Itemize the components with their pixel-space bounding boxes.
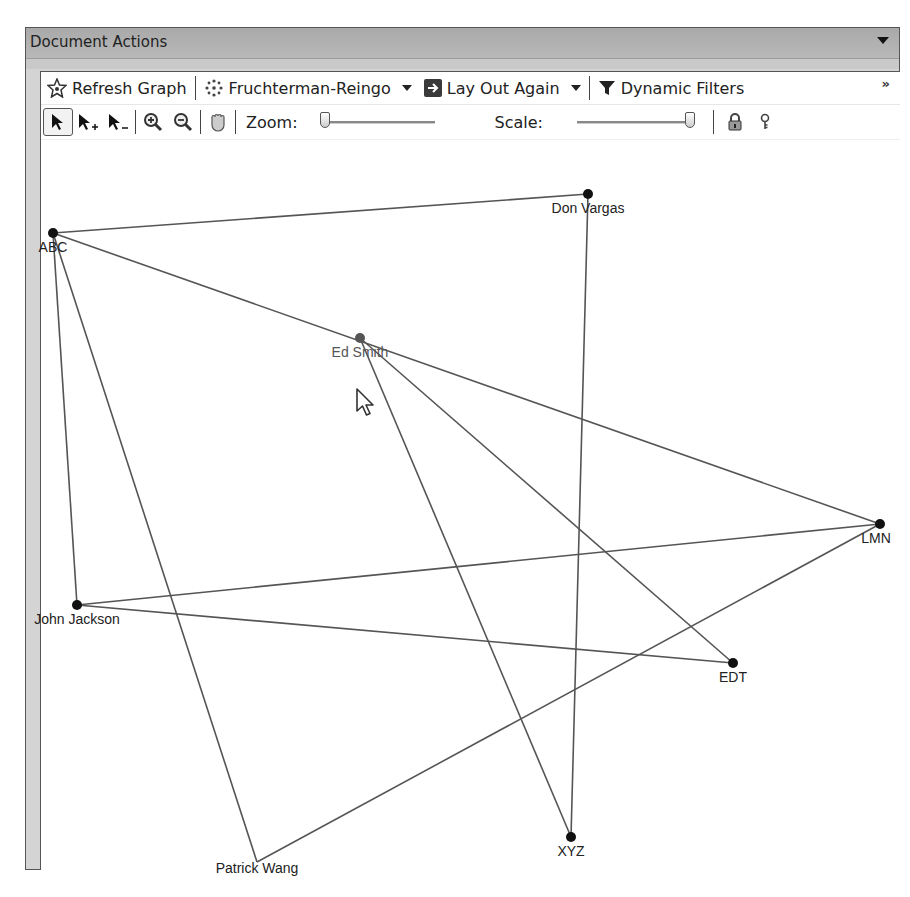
graph-node-edsmith[interactable]: [355, 333, 365, 343]
node-label: Patrick Wang: [216, 860, 299, 876]
mouse-cursor-icon: [355, 387, 377, 419]
graph-node-xyz[interactable]: [566, 832, 576, 842]
graph-node-edt[interactable]: [728, 658, 738, 668]
network-graph-canvas[interactable]: [0, 0, 910, 897]
graph-node-abc[interactable]: [48, 228, 58, 238]
node-label: Ed Smith: [332, 344, 389, 360]
graph-edge[interactable]: [571, 194, 588, 837]
graph-edge[interactable]: [53, 233, 77, 605]
node-label: LMN: [861, 530, 891, 546]
graph-edge[interactable]: [53, 233, 257, 862]
graph-edge[interactable]: [77, 605, 733, 663]
node-label: ABC: [39, 239, 68, 255]
graph-edge[interactable]: [53, 194, 588, 233]
graph-edge[interactable]: [257, 524, 880, 862]
node-label: XYZ: [557, 843, 584, 859]
node-label: EDT: [719, 669, 747, 685]
graph-node-donvargas[interactable]: [583, 189, 593, 199]
node-label: Don Vargas: [552, 200, 625, 216]
graph-node-lmn[interactable]: [875, 519, 885, 529]
node-label: John Jackson: [34, 611, 120, 627]
graph-edge[interactable]: [360, 338, 733, 663]
graph-node-johnjackson[interactable]: [72, 600, 82, 610]
graph-edge[interactable]: [53, 233, 880, 524]
graph-edge[interactable]: [77, 524, 880, 605]
graph-edge[interactable]: [360, 338, 571, 837]
